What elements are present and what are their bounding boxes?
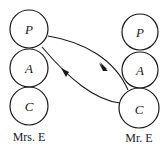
mrs-e-parent-letter: P bbox=[24, 22, 33, 37]
mr-e-child-letter: C bbox=[135, 102, 144, 117]
stimulus-arrowhead-fill bbox=[99, 63, 108, 71]
mrs-e-label: Mrs. E bbox=[13, 130, 46, 144]
mr-e-adult-letter: A bbox=[135, 63, 144, 78]
mr-e-parent-letter: P bbox=[135, 25, 144, 40]
mrs-e-ego-states: P A C bbox=[10, 10, 48, 125]
response-arrow-line bbox=[42, 47, 120, 103]
response-arrowhead-icon bbox=[61, 68, 69, 77]
mrs-e-child-letter: C bbox=[25, 99, 34, 114]
ta-diagram: P A C P A C Mrs. E Mr. E bbox=[0, 0, 168, 152]
stimulus-arrow-line bbox=[48, 36, 128, 90]
mrs-e-adult-letter: A bbox=[24, 61, 33, 76]
transaction-arrows bbox=[42, 36, 128, 103]
mr-e-label: Mr. E bbox=[125, 131, 152, 145]
mr-e-ego-states: P A C bbox=[119, 14, 159, 128]
